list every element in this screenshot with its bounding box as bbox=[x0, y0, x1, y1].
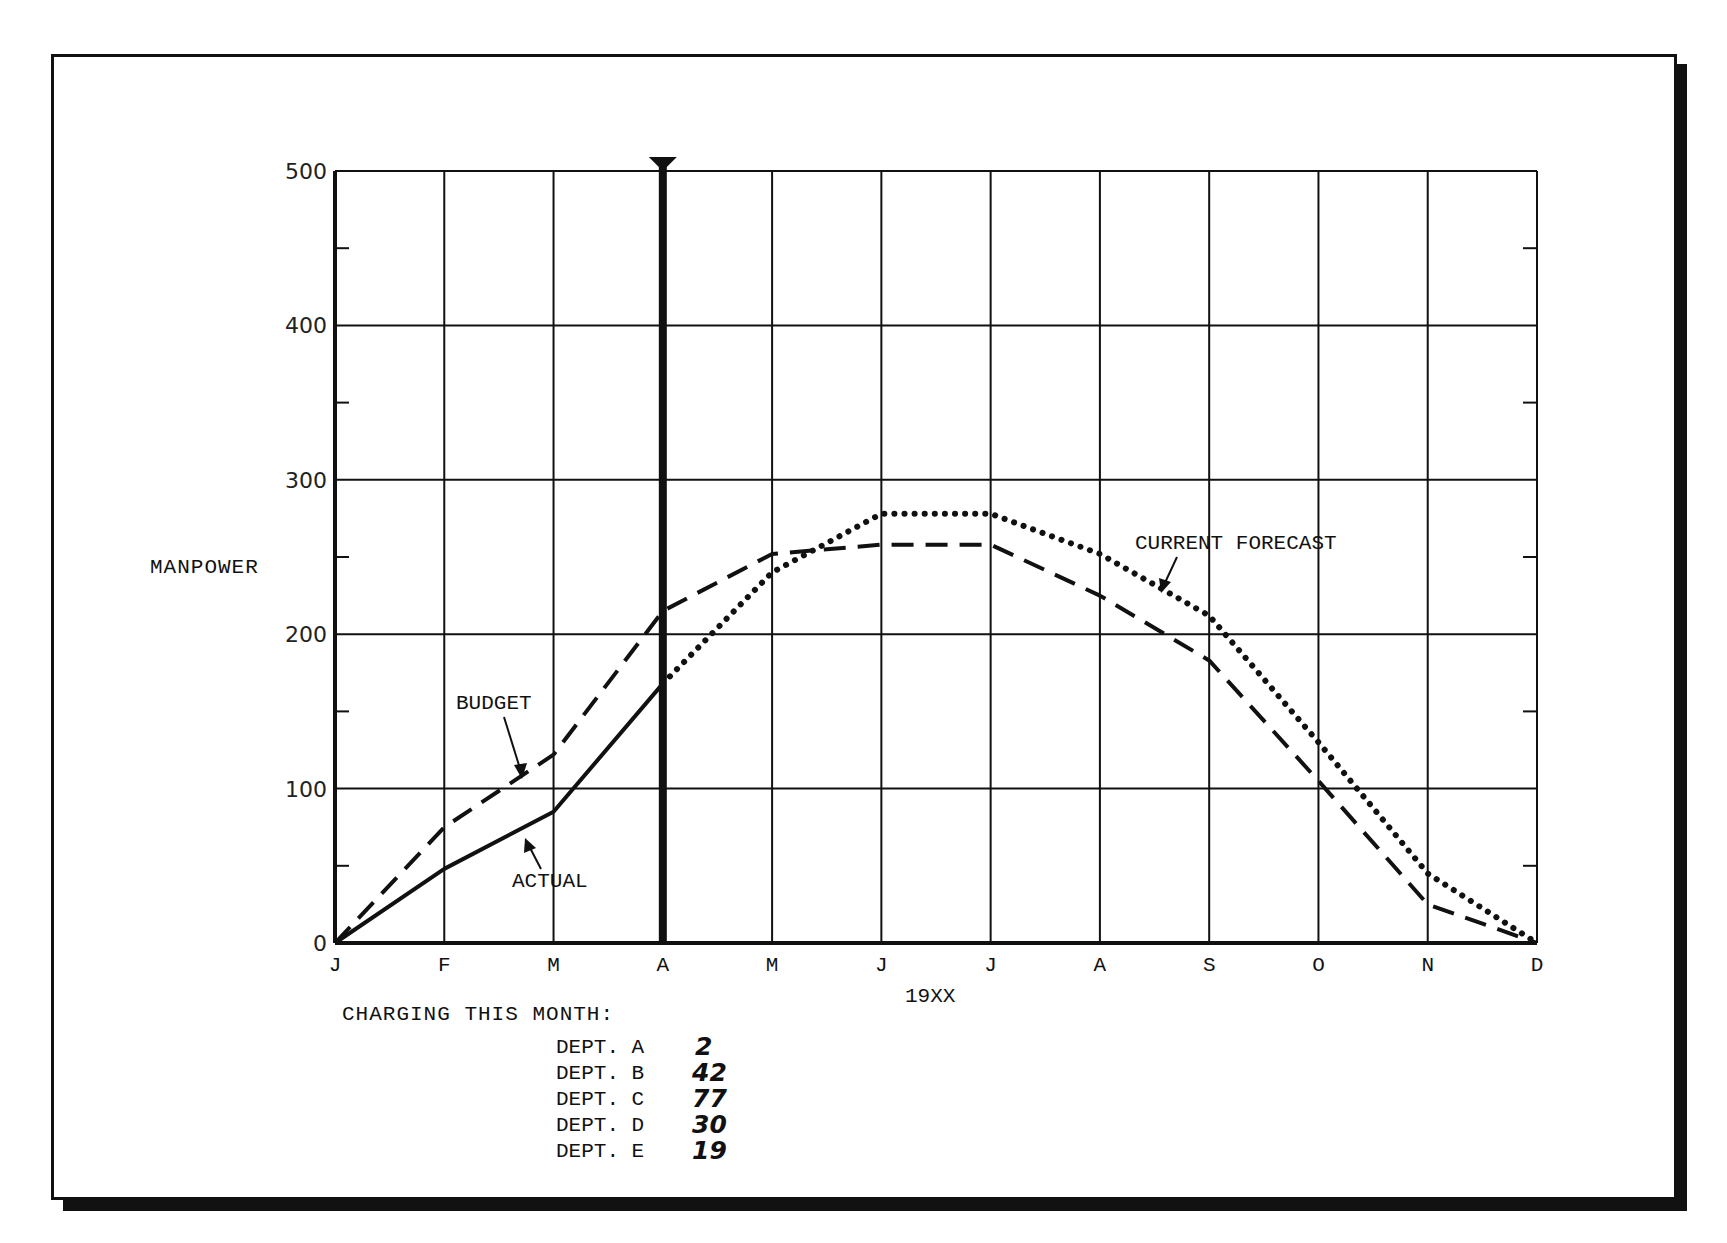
x-tick-label: J bbox=[329, 954, 342, 977]
x-axis-ticks: JFMAMJJASOND bbox=[329, 954, 1544, 977]
manpower-chart: 0100200300400500 JFMAMJJASOND BUDGETACTU… bbox=[0, 0, 1727, 1243]
dept-value: 2 bbox=[695, 1032, 712, 1061]
x-tick-label: D bbox=[1531, 954, 1544, 977]
dept-label: DEPT. C bbox=[556, 1088, 644, 1111]
x-tick-label: F bbox=[438, 954, 451, 977]
y-tick-label: 400 bbox=[285, 313, 327, 338]
y-axis-ticks: 0100200300400500 bbox=[285, 159, 327, 956]
x-tick-label: N bbox=[1421, 954, 1434, 977]
x-tick-label: M bbox=[766, 954, 779, 977]
current-month-marker bbox=[649, 157, 677, 943]
plot-grid bbox=[335, 171, 1537, 943]
y-tick-label: 500 bbox=[285, 159, 327, 184]
y-tick-label: 200 bbox=[285, 622, 327, 647]
dept-label: DEPT. E bbox=[556, 1140, 644, 1163]
y-tick-label: 100 bbox=[285, 777, 327, 802]
dept-label: DEPT. A bbox=[556, 1036, 644, 1059]
label-current-forecast: CURRENT FORECAST bbox=[1135, 532, 1337, 555]
marker-arrow-icon bbox=[649, 157, 677, 171]
x-tick-label: A bbox=[1094, 954, 1107, 977]
x-tick-label: S bbox=[1203, 954, 1216, 977]
charging-title: CHARGING THIS MONTH: bbox=[342, 1003, 614, 1026]
dept-value: 19 bbox=[692, 1136, 727, 1165]
y-tick-label: 300 bbox=[285, 468, 327, 493]
x-tick-label: J bbox=[984, 954, 997, 977]
dept-value: 30 bbox=[692, 1110, 727, 1139]
y-axis-label: MANPOWER bbox=[150, 556, 259, 579]
label-actual: ACTUAL bbox=[512, 870, 588, 893]
dept-value: 77 bbox=[692, 1084, 727, 1113]
x-tick-label: A bbox=[657, 954, 670, 977]
label-budget: BUDGET bbox=[456, 692, 532, 715]
dept-value: 42 bbox=[692, 1058, 727, 1087]
dept-label: DEPT. D bbox=[556, 1114, 644, 1137]
x-axis-title: 19XX bbox=[905, 985, 955, 1008]
x-tick-label: O bbox=[1312, 954, 1325, 977]
y-tick-label: 0 bbox=[313, 931, 327, 956]
arrow-icon bbox=[524, 838, 536, 853]
x-tick-label: M bbox=[547, 954, 560, 977]
x-tick-label: J bbox=[875, 954, 888, 977]
series-actual bbox=[335, 684, 663, 943]
dept-label: DEPT. B bbox=[556, 1062, 644, 1085]
